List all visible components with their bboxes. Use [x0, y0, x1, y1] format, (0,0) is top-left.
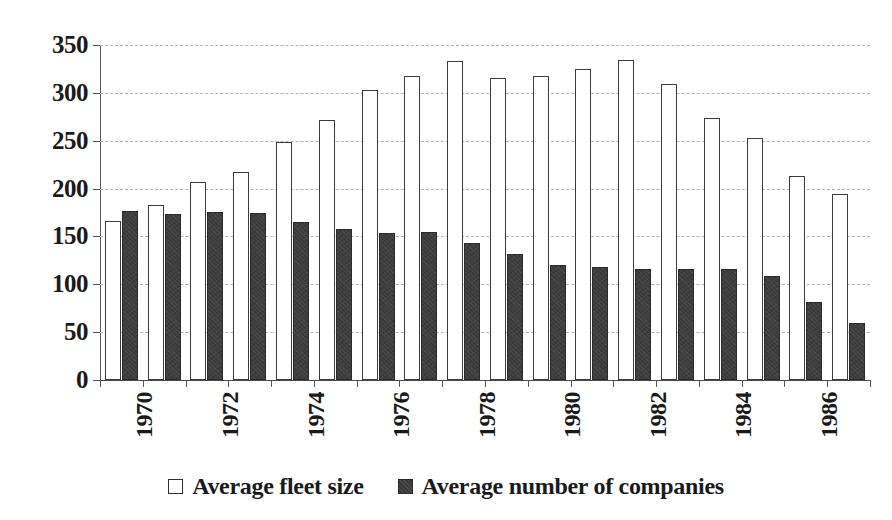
chart-legend: Average fleet sizeAverage number of comp… [0, 474, 892, 498]
x-axis-tick-label: 1974 [304, 392, 328, 438]
legend-label: Average number of companies [422, 474, 724, 498]
legend-item[interactable]: Average number of companies [398, 474, 724, 498]
bar-group [447, 45, 480, 380]
bar-group [490, 45, 523, 380]
bar-group [704, 45, 737, 380]
bar-average-number-of-companies [678, 269, 694, 380]
x-axis-tick-mark [357, 380, 358, 387]
bar-chart: 050100150200250300350 197019721974197619… [0, 0, 892, 520]
bar-average-fleet-size [618, 60, 634, 380]
x-axis-tick-label: 1976 [389, 392, 413, 438]
bar-average-number-of-companies [464, 243, 480, 380]
x-axis-tick-mark [271, 380, 272, 387]
bar-average-fleet-size [148, 205, 164, 380]
bar-average-number-of-companies [207, 212, 223, 380]
bar-group [233, 45, 266, 380]
x-axis-tick-label: 1984 [731, 392, 755, 438]
x-axis-tick-mark [143, 380, 144, 387]
bar-average-number-of-companies [721, 269, 737, 380]
y-axis-tick-label-text: 0 [76, 367, 88, 392]
y-axis-tick-label-text: 250 [52, 128, 88, 153]
x-axis-tick-mark [613, 380, 614, 387]
bar-average-fleet-size [319, 120, 335, 380]
x-axis-tick-mark [314, 380, 315, 387]
x-axis-tick-mark [399, 380, 400, 387]
bar-average-fleet-size [575, 69, 591, 380]
bar-average-fleet-size [789, 176, 805, 380]
y-axis-tick-label-text: 200 [52, 176, 88, 201]
bar-average-fleet-size [661, 84, 677, 380]
bar-average-number-of-companies [165, 214, 181, 380]
bar-average-number-of-companies [250, 213, 266, 380]
y-axis-tick-label: 0 [20, 367, 88, 393]
bar-average-number-of-companies [635, 269, 651, 380]
bar-average-fleet-size [233, 172, 249, 380]
y-axis-tick-label-text: 50 [64, 319, 88, 344]
x-axis-tick-label: 1972 [218, 392, 242, 438]
y-axis-tick-label: 150 [20, 223, 88, 249]
legend-item[interactable]: Average fleet size [168, 474, 363, 498]
bar-average-fleet-size [490, 78, 506, 380]
bar-average-number-of-companies [592, 267, 608, 380]
bar-group [148, 45, 181, 380]
bar-average-number-of-companies [421, 232, 437, 380]
bar-average-fleet-size [362, 90, 378, 380]
y-axis-tick-label: 50 [20, 319, 88, 345]
bar-group [362, 45, 395, 380]
x-axis-tick-mark [827, 380, 828, 387]
legend-label: Average fleet size [192, 474, 363, 498]
x-axis-tick-mark [870, 380, 871, 387]
bar-group [575, 45, 608, 380]
bar-average-number-of-companies [122, 211, 138, 380]
bar-average-number-of-companies [849, 323, 865, 380]
filled-square-icon [398, 479, 413, 494]
y-axis-tick-label-text: 300 [52, 80, 88, 105]
bar-group [789, 45, 822, 380]
plot-area [100, 45, 870, 380]
open-square-icon [168, 479, 183, 494]
bar-average-fleet-size [105, 221, 121, 380]
bar-average-number-of-companies [293, 222, 309, 380]
bar-group [190, 45, 223, 380]
bar-group [747, 45, 780, 380]
x-axis-tick-label: 1982 [646, 392, 670, 438]
bar-average-fleet-size [404, 76, 420, 380]
x-axis-tick-mark [485, 380, 486, 387]
x-axis-tick-label: 1970 [132, 392, 156, 438]
bar-average-number-of-companies [764, 276, 780, 380]
x-axis-tick-mark [742, 380, 743, 387]
x-axis-tick-label: 1986 [817, 392, 841, 438]
x-axis-tick-mark [442, 380, 443, 387]
y-axis-tick-label-text: 100 [52, 271, 88, 296]
bar-average-fleet-size [276, 142, 292, 380]
bar-average-fleet-size [190, 182, 206, 380]
x-axis-tick-label: 1980 [560, 392, 584, 438]
y-axis-tick-label: 100 [20, 271, 88, 297]
y-axis-tick-label: 200 [20, 176, 88, 202]
bar-average-number-of-companies [550, 265, 566, 380]
x-axis-tick-mark [100, 380, 101, 387]
bar-group [832, 45, 865, 380]
bar-average-fleet-size [447, 61, 463, 380]
bar-average-fleet-size [704, 118, 720, 380]
x-axis-tick-mark [784, 380, 785, 387]
bar-average-number-of-companies [336, 229, 352, 380]
x-axis-tick-mark [528, 380, 529, 387]
bar-group [533, 45, 566, 380]
y-axis-tick-label-text: 150 [52, 223, 88, 248]
bar-group [618, 45, 651, 380]
y-axis-tick-label: 350 [20, 32, 88, 58]
x-axis-tick-mark [228, 380, 229, 387]
x-axis-tick-mark [186, 380, 187, 387]
bar-average-fleet-size [832, 194, 848, 380]
bar-average-fleet-size [747, 138, 763, 380]
bar-group [319, 45, 352, 380]
bar-group [404, 45, 437, 380]
bar-average-number-of-companies [507, 254, 523, 380]
x-axis-tick-mark [699, 380, 700, 387]
bar-average-number-of-companies [806, 302, 822, 380]
bar-group [276, 45, 309, 380]
x-axis-tick-label: 1978 [475, 392, 499, 438]
bar-group [105, 45, 138, 380]
y-axis-tick-label-text: 350 [52, 32, 88, 57]
